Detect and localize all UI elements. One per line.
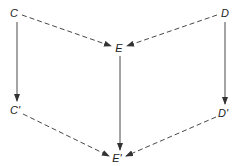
node-label-e-prime: E'	[112, 153, 121, 164]
arrow-d-to-e	[127, 15, 217, 46]
node-label-e: E	[115, 43, 122, 54]
node-label-d: D	[221, 8, 229, 19]
arrow-c-to-e	[22, 15, 111, 46]
node-label-d-prime: D'	[218, 108, 228, 119]
commutative-diagram: C D E C' D' E'	[0, 0, 242, 166]
node-label-c-prime: C'	[10, 105, 20, 116]
node-label-c: C	[10, 8, 18, 19]
diagram-canvas	[0, 0, 242, 166]
arrow-c-prime-to-e-prime	[23, 114, 109, 156]
arrow-d-prime-to-e-prime	[126, 117, 216, 156]
